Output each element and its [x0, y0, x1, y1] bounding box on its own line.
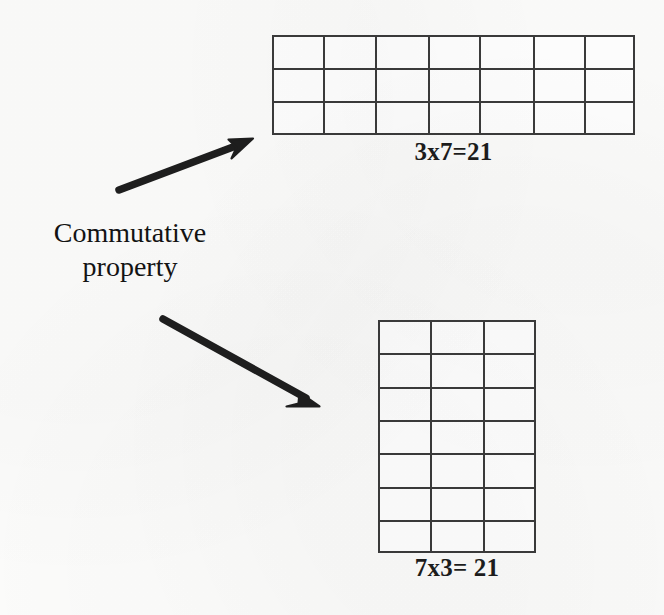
- array-cell: [432, 355, 485, 389]
- arrow-to-bottom-array: [163, 319, 320, 407]
- array-cell: [485, 455, 536, 489]
- array-cell: [380, 489, 432, 522]
- array-cell: [485, 522, 536, 553]
- array-cell: [485, 489, 536, 522]
- concept-title-line-1: Commutative: [10, 216, 250, 250]
- array-grid-7x3: [378, 320, 536, 553]
- array-cell: [430, 70, 481, 103]
- array-cell: [377, 70, 430, 103]
- arrow-shaft: [163, 319, 306, 398]
- array-cell: [481, 37, 535, 70]
- array-cell: [380, 422, 432, 455]
- array-cell: [432, 489, 485, 522]
- arrow-head: [229, 139, 254, 159]
- array-cell: [535, 103, 586, 135]
- array-cell: [485, 355, 536, 389]
- array-cell: [432, 322, 485, 355]
- array-cell: [586, 37, 635, 70]
- equation-label-7x3: 7x3= 21: [378, 554, 536, 582]
- array-cell: [380, 522, 432, 553]
- array-cell: [274, 37, 325, 70]
- array-cell: [485, 322, 536, 355]
- array-cell: [535, 37, 586, 70]
- array-cell: [380, 322, 432, 355]
- commutative-property-diagram: 3x7=21 7x3= 21 Commutative property: [0, 0, 664, 615]
- array-cell: [481, 103, 535, 135]
- array-cell: [481, 70, 535, 103]
- array-cell: [430, 103, 481, 135]
- array-cell: [535, 70, 586, 103]
- array-cell: [485, 422, 536, 455]
- array-cell: [432, 455, 485, 489]
- array-cell: [325, 37, 377, 70]
- array-cell: [325, 103, 377, 135]
- array-cell: [377, 103, 430, 135]
- array-cell: [485, 389, 536, 422]
- array-cell: [432, 422, 485, 455]
- array-cell: [377, 37, 430, 70]
- array-cell: [274, 70, 325, 103]
- array-cell: [586, 103, 635, 135]
- array-cell: [274, 103, 325, 135]
- array-cell: [380, 355, 432, 389]
- concept-title: Commutative property: [10, 216, 250, 284]
- array-cell: [586, 70, 635, 103]
- array-cell: [432, 389, 485, 422]
- array-cell: [380, 389, 432, 422]
- concept-title-line-2: property: [10, 250, 250, 284]
- array-cell: [325, 70, 377, 103]
- array-cell: [432, 522, 485, 553]
- array-grid-3x7: [272, 35, 635, 135]
- equation-label-3x7: 3x7=21: [272, 138, 635, 166]
- array-cell: [430, 37, 481, 70]
- arrow-head: [287, 393, 320, 407]
- arrow-shaft: [119, 144, 241, 190]
- arrow-to-top-array: [119, 139, 253, 191]
- array-cell: [380, 455, 432, 489]
